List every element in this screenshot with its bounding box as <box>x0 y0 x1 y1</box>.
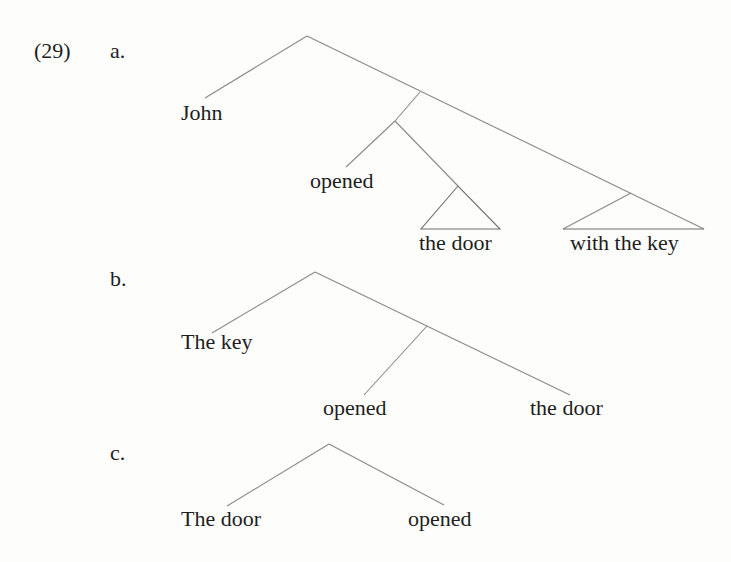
tree-a-word-john: John <box>181 102 223 124</box>
tree-c-lines <box>227 444 444 506</box>
tree-a-word-opened: opened <box>310 170 374 192</box>
item-label-c: c. <box>110 442 125 464</box>
example-number: (29) <box>34 40 71 62</box>
tree-b-word-opened: opened <box>323 397 387 419</box>
tree-a-lines <box>205 36 704 229</box>
tree-c-word-opened: opened <box>408 508 472 530</box>
tree-b-lines <box>212 272 570 395</box>
tree-c-word-the-door: The door <box>181 508 261 530</box>
tree-b-word-the-key: The key <box>181 331 252 353</box>
item-label-a: a. <box>110 40 125 62</box>
item-label-b: b. <box>110 268 127 290</box>
syntax-tree-figure: (29) a. b. c. John opened the door with … <box>0 0 731 562</box>
tree-a-word-with-the-key: with the key <box>570 232 679 254</box>
tree-b-word-the-door: the door <box>530 397 603 419</box>
tree-a-word-the-door: the door <box>419 232 492 254</box>
